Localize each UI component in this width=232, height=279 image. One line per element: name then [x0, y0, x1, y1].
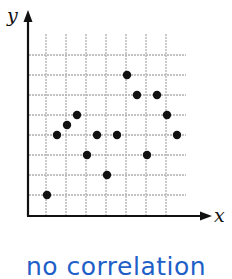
data-point	[133, 91, 141, 99]
data-point	[93, 131, 101, 139]
data-point	[143, 151, 151, 159]
data-point	[83, 151, 91, 159]
y-axis-label: y	[6, 4, 18, 26]
data-point	[153, 91, 161, 99]
data-point	[63, 121, 71, 129]
chart-caption: no correlation	[0, 252, 232, 279]
data-point	[163, 111, 171, 119]
data-point	[113, 131, 121, 139]
data-point	[123, 71, 131, 79]
y-axis-arrow-icon	[24, 10, 33, 22]
data-point	[43, 191, 51, 199]
grid-lines	[29, 34, 186, 215]
x-axis-arrow-icon	[200, 212, 212, 221]
data-point	[103, 171, 111, 179]
data-point	[53, 131, 61, 139]
scatter-plot: y x	[0, 0, 232, 240]
x-axis-label: x	[214, 204, 225, 226]
data-point	[173, 131, 181, 139]
data-point	[73, 111, 81, 119]
